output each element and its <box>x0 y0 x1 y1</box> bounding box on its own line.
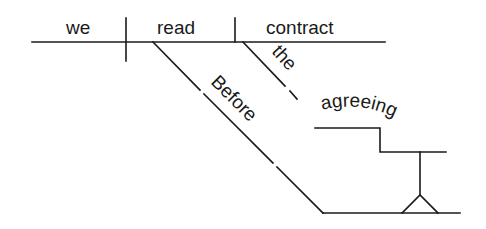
subject-word: we <box>65 17 90 38</box>
gerund-step-line <box>315 128 446 152</box>
object-word: contract <box>266 17 334 38</box>
verb-word: read <box>157 17 195 38</box>
preposition-line <box>153 42 323 213</box>
pedestal-foot <box>402 195 438 213</box>
sentence-diagram: we read contract the Before agreeing <box>0 0 486 229</box>
gerund-word: agreeing <box>319 89 401 120</box>
gerund-word-path: agreeing <box>319 89 401 120</box>
preposition-word: Before <box>207 71 261 125</box>
object-modifier-word: the <box>268 41 301 75</box>
